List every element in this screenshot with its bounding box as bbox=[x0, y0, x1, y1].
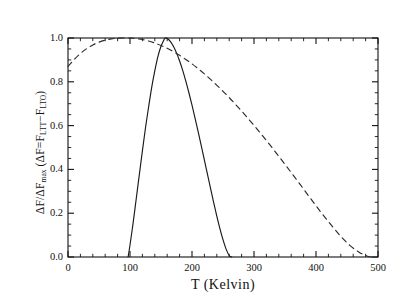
x-tick-label: 300 bbox=[234, 262, 274, 273]
plot-frame bbox=[68, 38, 378, 257]
y-tick-label: 0.6 bbox=[23, 120, 63, 131]
dashed-curve bbox=[68, 38, 375, 257]
y-tick-label: 0.8 bbox=[23, 76, 63, 87]
x-tick-label: 200 bbox=[172, 262, 212, 273]
x-tick-label: 0 bbox=[48, 262, 88, 273]
y-tick-label: 0.4 bbox=[23, 163, 63, 174]
data-series-layer bbox=[68, 38, 375, 257]
y-tick-label: 1.0 bbox=[23, 32, 63, 43]
x-tick-label: 500 bbox=[358, 262, 398, 273]
chart-figure: ΔF/ΔFmax (ΔF=FLTT−FLTO) T (Kelvin) 01002… bbox=[0, 0, 403, 305]
minor-tick-marks bbox=[68, 38, 378, 257]
y-tick-label: 0.0 bbox=[23, 251, 63, 262]
x-tick-label: 400 bbox=[296, 262, 336, 273]
solid-curve bbox=[128, 38, 232, 257]
major-tick-marks bbox=[68, 38, 378, 257]
x-tick-label: 100 bbox=[110, 262, 150, 273]
y-tick-label: 0.2 bbox=[23, 207, 63, 218]
